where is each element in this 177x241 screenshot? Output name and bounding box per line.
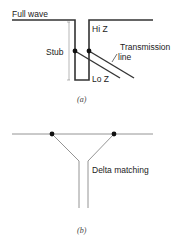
delta-tap-dot-right xyxy=(112,132,117,137)
label-full-wave: Full wave xyxy=(12,9,48,19)
figure-b-delta-matching: Delta matching (b) xyxy=(12,132,153,235)
label-hi-z: Hi Z xyxy=(92,24,108,34)
tap-point-dot-left xyxy=(73,49,78,54)
delta-feed-left xyxy=(52,134,79,208)
figure-a-stub-matching: Full wave Hi Z Stub Transmission line Lo… xyxy=(12,9,170,104)
transmission-label-leader xyxy=(112,54,117,62)
label-delta-matching: Delta matching xyxy=(92,165,149,175)
caption-b: (b) xyxy=(77,226,87,235)
tap-point-dot-right xyxy=(87,49,92,54)
antenna-matching-diagram: Full wave Hi Z Stub Transmission line Lo… xyxy=(0,0,177,241)
delta-tap-dot-left xyxy=(50,132,55,137)
label-line: line xyxy=(118,52,132,62)
label-transmission: Transmission xyxy=(120,42,170,52)
caption-a: (a) xyxy=(77,95,87,104)
label-stub: Stub xyxy=(46,47,64,57)
label-lo-z: Lo Z xyxy=(92,74,109,84)
